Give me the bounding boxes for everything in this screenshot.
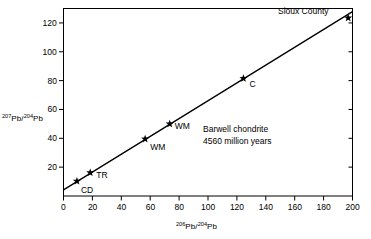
point-label-cd-0: CD bbox=[81, 185, 93, 195]
point-label-wm-2: WM bbox=[150, 142, 165, 152]
data-point-sioux-county-5 bbox=[344, 14, 352, 22]
y-tick-label-0: 20 bbox=[48, 162, 57, 172]
y-tick-label-1: 40 bbox=[48, 133, 57, 143]
right-axis-ticks bbox=[349, 23, 353, 167]
x-axis-title: 206Pb/204Pb bbox=[176, 221, 217, 231]
y-axis-title: 207Pb/204Pb bbox=[2, 113, 43, 123]
isochron-plot-figure: 207Pb/204Pb 206Pb/204Pb Barwell chondrit… bbox=[0, 0, 371, 239]
x-tick-label-2: 40 bbox=[117, 202, 126, 212]
y-tick-label-5: 120 bbox=[43, 18, 57, 28]
sioux-county-label: Sioux County bbox=[278, 6, 329, 16]
y-tick-label-2: 60 bbox=[48, 104, 57, 114]
x-axis-title-pb: Pb bbox=[207, 222, 217, 231]
x-tick-label-1: 20 bbox=[88, 202, 97, 212]
y-axis-title-sup-204: 204 bbox=[24, 113, 33, 119]
x-tick-label-9: 180 bbox=[317, 202, 331, 212]
isochron-line bbox=[64, 12, 353, 190]
x-tick-label-8: 160 bbox=[288, 202, 302, 212]
x-axis-title-pb-slash: Pb/ bbox=[185, 222, 197, 231]
point-label-tr-1: TR bbox=[96, 170, 107, 180]
point-label-wm-3: WM bbox=[175, 121, 190, 131]
x-tick-label-6: 120 bbox=[230, 202, 244, 212]
x-tick-label-0: 0 bbox=[61, 202, 66, 212]
plot-frame bbox=[64, 9, 353, 197]
point-label-c-4: C bbox=[249, 79, 255, 89]
x-tick-label-7: 140 bbox=[259, 202, 273, 212]
y-axis-ticks bbox=[59, 23, 64, 167]
x-tick-label-10: 200 bbox=[346, 202, 360, 212]
annotation-line-2: 4560 million years bbox=[203, 136, 272, 148]
x-axis-ticks bbox=[64, 196, 353, 201]
x-tick-label-4: 80 bbox=[175, 202, 184, 212]
x-axis-title-sup-206: 206 bbox=[176, 221, 185, 227]
chart-annotation: Barwell chondrite 4560 million years bbox=[203, 124, 272, 147]
y-tick-label-4: 100 bbox=[43, 47, 57, 57]
annotation-line-1: Barwell chondrite bbox=[203, 124, 272, 136]
x-axis-title-sup-204: 204 bbox=[198, 221, 207, 227]
y-axis-title-pb-slash: Pb/ bbox=[11, 114, 23, 123]
x-tick-label-5: 100 bbox=[201, 202, 215, 212]
y-axis-title-sup-207: 207 bbox=[2, 113, 11, 119]
x-tick-label-3: 60 bbox=[146, 202, 155, 212]
plot-canvas bbox=[0, 0, 371, 239]
y-tick-label-3: 80 bbox=[48, 76, 57, 86]
y-axis-title-pb: Pb bbox=[33, 114, 43, 123]
